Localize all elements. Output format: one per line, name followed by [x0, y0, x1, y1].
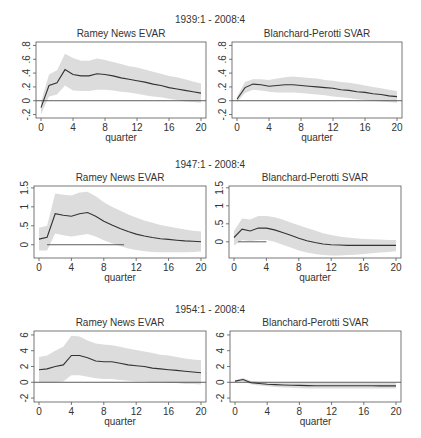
- x-tick-label: 16: [163, 262, 175, 273]
- y-tick-label: .2: [21, 82, 32, 91]
- sample-label-row-1: 1939:1 - 2008:4: [175, 14, 245, 25]
- x-tick-label: 4: [69, 262, 75, 273]
- sample-label-row-3: 1954:1 - 2008:4: [175, 304, 245, 315]
- confidence-band: [237, 77, 397, 103]
- x-axis-label: quarter: [299, 272, 331, 283]
- irf-figure: 1939:1 - 2008:4 1947:1 - 2008:4 1954:1 -…: [0, 0, 421, 438]
- x-axis-label: quarter: [105, 132, 137, 143]
- y-tick-label: 0: [21, 98, 32, 104]
- y-tick-label: 0: [217, 98, 228, 104]
- confidence-band: [39, 192, 201, 253]
- panel-title: Blanchard-Perotti SVAR: [264, 28, 371, 39]
- y-tick-label: 0: [19, 379, 30, 385]
- x-axis-label: quarter: [301, 132, 333, 143]
- panel-title: Ramey News EVAR: [76, 172, 165, 183]
- confidence-band: [39, 336, 201, 385]
- y-tick-label: .2: [217, 82, 228, 91]
- x-axis-label: quarter: [300, 416, 332, 427]
- y-tick-label: 6: [19, 332, 30, 338]
- y-tick-label: 1.5: [19, 181, 30, 195]
- confidence-band: [234, 216, 396, 256]
- y-tick-label: .5: [214, 219, 225, 228]
- y-tick-label: -2: [19, 393, 30, 402]
- panel-row3-left: Ramey News EVAR-20246048121620quarter: [19, 317, 207, 427]
- x-axis-label: quarter: [104, 272, 136, 283]
- panel-row2-right: Blanchard-Perotti SVAR0.511.5048121620qu…: [214, 172, 402, 283]
- x-axis-label: quarter: [104, 416, 136, 427]
- plot-frame: [230, 331, 401, 402]
- y-tick-label: 1: [19, 204, 30, 210]
- y-tick-label: -.2: [21, 108, 32, 120]
- x-tick-label: 0: [36, 406, 42, 417]
- confidence-band: [41, 54, 201, 115]
- y-tick-label: 6: [215, 332, 226, 338]
- x-tick-label: 20: [390, 262, 402, 273]
- y-tick-label: 2: [19, 363, 30, 369]
- y-tick-label: 4: [215, 348, 226, 354]
- x-tick-label: 4: [266, 122, 272, 133]
- x-tick-label: 4: [70, 122, 76, 133]
- x-tick-label: 4: [264, 262, 270, 273]
- y-tick-label: .8: [217, 41, 228, 50]
- panel-title: Ramey News EVAR: [76, 317, 165, 328]
- x-tick-label: 4: [69, 406, 75, 417]
- y-tick-label: 1: [214, 203, 225, 209]
- x-tick-label: 16: [358, 262, 370, 273]
- y-tick-label: 0: [214, 239, 225, 245]
- panel-row2-left: Ramey News EVAR0.511.5048121620quarter: [19, 172, 207, 283]
- y-tick-label: 4: [19, 348, 30, 354]
- y-tick-label: .6: [217, 55, 228, 64]
- panel-title: Ramey News EVAR: [77, 28, 166, 39]
- x-tick-label: 20: [195, 122, 207, 133]
- y-tick-label: 0: [215, 379, 226, 385]
- x-tick-label: 16: [163, 122, 175, 133]
- y-tick-label: .8: [21, 41, 32, 50]
- y-tick-label: .4: [21, 68, 32, 77]
- x-tick-label: 0: [232, 406, 238, 417]
- x-tick-label: 20: [195, 262, 207, 273]
- x-tick-label: 20: [390, 406, 402, 417]
- panel-title: Blanchard-Perotti SVAR: [262, 317, 369, 328]
- y-tick-label: -.2: [217, 108, 228, 120]
- y-tick-label: .4: [217, 68, 228, 77]
- y-tick-label: .6: [21, 55, 32, 64]
- panel-row3-right: Blanchard-Perotti SVAR-20246048121620qua…: [215, 317, 402, 427]
- x-tick-label: 0: [36, 262, 42, 273]
- x-tick-label: 16: [359, 122, 371, 133]
- sample-label-row-2: 1947:1 - 2008:4: [175, 159, 245, 170]
- x-tick-label: 20: [391, 122, 403, 133]
- y-tick-label: 2: [215, 363, 226, 369]
- x-tick-label: 20: [195, 406, 207, 417]
- y-tick-label: 1.5: [214, 180, 225, 194]
- x-tick-label: 0: [231, 262, 237, 273]
- y-tick-label: -2: [215, 393, 226, 402]
- x-tick-label: 0: [38, 122, 44, 133]
- x-tick-label: 16: [358, 406, 370, 417]
- panel-row1-right: Blanchard-Perotti SVAR-.20.2.4.6.8048121…: [217, 28, 403, 143]
- panel-row1-left: Ramey News EVAR-.20.2.4.6.8048121620quar…: [21, 28, 207, 143]
- x-tick-label: 0: [234, 122, 240, 133]
- x-tick-label: 16: [163, 406, 175, 417]
- y-tick-label: 0: [19, 242, 30, 248]
- x-tick-label: 4: [264, 406, 270, 417]
- y-tick-label: .5: [19, 221, 30, 230]
- panel-title: Blanchard-Perotti SVAR: [262, 172, 369, 183]
